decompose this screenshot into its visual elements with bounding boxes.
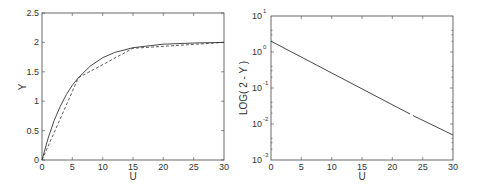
right-axes-box <box>271 16 453 160</box>
left-solid-curve <box>42 42 224 160</box>
right-xtick: 20 <box>387 162 397 172</box>
figure: 0 0.5 1 1.5 2 2.5 0 5 10 15 20 25 30 U Y <box>0 0 477 188</box>
right-line-segment <box>413 116 453 135</box>
left-ytick: 1.5 <box>26 67 39 77</box>
right-xtick: 10 <box>327 162 337 172</box>
right-ytick: 10 -2 <box>252 116 269 129</box>
svg-text:1: 1 <box>263 8 267 14</box>
left-xtick: 20 <box>158 162 168 172</box>
left-xtick: 30 <box>219 162 229 172</box>
right-line <box>271 41 410 114</box>
right-xtick: 30 <box>448 162 458 172</box>
svg-text:0: 0 <box>263 44 267 50</box>
right-ytick: 10 -1 <box>252 80 269 93</box>
svg-text:10: 10 <box>252 83 262 93</box>
right-ytick: 10 1 <box>252 8 267 21</box>
svg-text:-1: -1 <box>263 80 269 86</box>
right-ytick: 10 -3 <box>252 152 269 165</box>
left-dashed-curve <box>42 42 224 160</box>
left-ytick: 2 <box>34 37 39 47</box>
svg-text:-3: -3 <box>263 152 269 158</box>
left-ytick: 0.5 <box>26 126 39 136</box>
left-xlabel: U <box>129 171 136 182</box>
svg-text:-2: -2 <box>263 116 269 122</box>
left-ytick: 0 <box>34 155 39 165</box>
left-ytick: 1 <box>34 96 39 106</box>
right-xtick: 0 <box>268 162 273 172</box>
left-ytick: 2.5 <box>26 8 39 18</box>
svg-text:10: 10 <box>252 119 262 129</box>
right-xtick: 25 <box>418 162 428 172</box>
left-xtick: 10 <box>98 162 108 172</box>
right-xlabel: U <box>358 171 365 182</box>
right-ytick: 10 0 <box>252 44 267 57</box>
left-plot: 0 0.5 1 1.5 2 2.5 0 5 10 15 20 25 30 U Y <box>17 8 229 182</box>
left-xtick: 0 <box>39 162 44 172</box>
right-xtick: 5 <box>299 162 304 172</box>
left-ylabel: Y <box>17 83 28 90</box>
svg-text:10: 10 <box>252 155 262 165</box>
left-axes-box <box>42 13 224 160</box>
right-ylabel: LOG( 2 - Y ) <box>238 61 249 115</box>
left-xtick: 25 <box>189 162 199 172</box>
left-xtick: 5 <box>70 162 75 172</box>
svg-text:10: 10 <box>252 11 262 21</box>
right-plot: 10 -3 10 -2 10 -1 10 0 10 1 0 5 10 15 20… <box>238 8 458 182</box>
svg-text:10: 10 <box>252 47 262 57</box>
